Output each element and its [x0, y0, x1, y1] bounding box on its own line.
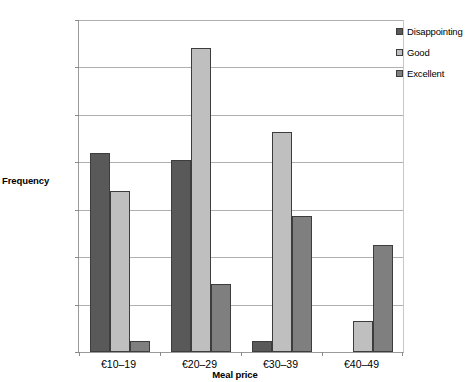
- legend-item-good[interactable]: Good: [396, 42, 470, 63]
- legend: DisappointingGoodExcellent: [396, 21, 470, 84]
- x-tick-mark-0: [160, 352, 161, 356]
- bar-excellent-2: [292, 216, 312, 352]
- plot-area: [78, 20, 404, 353]
- legend-item-disappointing[interactable]: Disappointing: [396, 21, 470, 42]
- bar-good-1: [191, 48, 211, 352]
- bar-good-0: [110, 191, 130, 352]
- x-tick-mark-3: [402, 352, 403, 356]
- bar-disappointing-1: [171, 160, 191, 352]
- legend-label: Disappointing: [407, 26, 463, 37]
- legend-label: Excellent: [407, 68, 444, 79]
- bar-chart: Frequency 010203040506070 €10–19€20–29€3…: [0, 0, 470, 382]
- x-axis-title: Meal price: [0, 369, 470, 380]
- x-tick-mark-2: [322, 352, 323, 356]
- bar-good-3: [353, 321, 373, 352]
- legend-swatch-icon-good: [396, 49, 403, 56]
- bar-disappointing-2: [252, 341, 272, 352]
- bar-excellent-1: [211, 284, 231, 352]
- x-tick-mark-origin: [79, 352, 80, 356]
- bar-good-2: [272, 132, 292, 352]
- bar-excellent-3: [373, 245, 393, 352]
- bar-excellent-0: [130, 341, 150, 352]
- legend-label: Good: [407, 47, 430, 58]
- legend-swatch-icon-disappointing: [396, 28, 403, 35]
- x-tick-mark-1: [241, 352, 242, 356]
- y-axis-title: Frequency: [2, 175, 49, 186]
- bar-disappointing-0: [90, 153, 110, 352]
- legend-swatch-icon-excellent: [396, 70, 403, 77]
- legend-item-excellent[interactable]: Excellent: [396, 63, 470, 84]
- bars-layer: [79, 20, 403, 352]
